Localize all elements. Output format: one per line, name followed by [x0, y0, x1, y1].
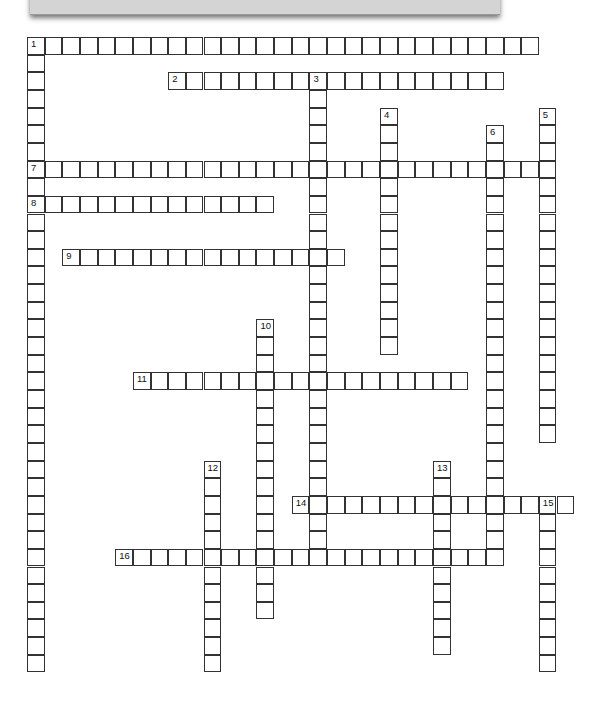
grid-cell[interactable]: 12: [204, 461, 222, 479]
grid-cell[interactable]: [133, 196, 151, 214]
grid-cell[interactable]: [309, 390, 327, 408]
grid-cell[interactable]: [486, 231, 504, 249]
grid-cell[interactable]: [309, 549, 327, 567]
grid-cell[interactable]: [292, 37, 310, 55]
grid-cell[interactable]: [256, 514, 274, 532]
grid-cell[interactable]: [115, 161, 133, 179]
grid-cell[interactable]: [362, 372, 380, 390]
grid-cell[interactable]: [380, 72, 398, 90]
grid-cell[interactable]: [274, 161, 292, 179]
grid-cell[interactable]: [486, 249, 504, 267]
grid-cell[interactable]: [256, 496, 274, 514]
grid-cell[interactable]: [309, 143, 327, 161]
grid-cell[interactable]: [380, 266, 398, 284]
grid-cell[interactable]: [539, 178, 557, 196]
grid-cell[interactable]: [204, 655, 222, 673]
grid-cell[interactable]: [327, 496, 345, 514]
grid-cell[interactable]: [327, 372, 345, 390]
grid-cell[interactable]: [256, 443, 274, 461]
grid-cell[interactable]: [539, 655, 557, 673]
grid-cell[interactable]: [27, 249, 45, 267]
grid-cell[interactable]: [62, 196, 80, 214]
grid-cell[interactable]: [133, 161, 151, 179]
grid-cell[interactable]: 10: [256, 319, 274, 337]
grid-cell[interactable]: [309, 337, 327, 355]
grid-cell[interactable]: [345, 549, 363, 567]
grid-cell[interactable]: [504, 161, 522, 179]
grid-cell[interactable]: [433, 619, 451, 637]
grid-cell[interactable]: [309, 319, 327, 337]
grid-cell[interactable]: [451, 72, 469, 90]
grid-cell[interactable]: [486, 337, 504, 355]
grid-cell[interactable]: [221, 549, 239, 567]
grid-cell[interactable]: [415, 161, 433, 179]
grid-cell[interactable]: [256, 478, 274, 496]
grid-cell[interactable]: [204, 602, 222, 620]
grid-cell[interactable]: [221, 249, 239, 267]
grid-cell[interactable]: [80, 161, 98, 179]
grid-cell[interactable]: [292, 549, 310, 567]
grid-cell[interactable]: [45, 37, 63, 55]
grid-cell[interactable]: [274, 549, 292, 567]
grid-cell[interactable]: [239, 161, 257, 179]
grid-cell[interactable]: [309, 372, 327, 390]
grid-cell[interactable]: [221, 196, 239, 214]
grid-cell[interactable]: [221, 161, 239, 179]
grid-cell[interactable]: [327, 72, 345, 90]
grid-cell[interactable]: [221, 372, 239, 390]
grid-cell[interactable]: [309, 196, 327, 214]
grid-cell[interactable]: [345, 72, 363, 90]
grid-cell[interactable]: [415, 72, 433, 90]
grid-cell[interactable]: [204, 72, 222, 90]
grid-cell[interactable]: [327, 549, 345, 567]
grid-cell[interactable]: [415, 496, 433, 514]
grid-cell[interactable]: [239, 372, 257, 390]
grid-cell[interactable]: [27, 72, 45, 90]
grid-cell[interactable]: [309, 461, 327, 479]
grid-cell[interactable]: 2: [168, 72, 186, 90]
grid-cell[interactable]: [539, 266, 557, 284]
grid-cell[interactable]: [433, 478, 451, 496]
grid-cell[interactable]: [380, 178, 398, 196]
grid-cell[interactable]: [204, 531, 222, 549]
grid-cell[interactable]: 13: [433, 461, 451, 479]
grid-cell[interactable]: [256, 531, 274, 549]
grid-cell[interactable]: [168, 549, 186, 567]
grid-cell[interactable]: [204, 584, 222, 602]
grid-cell[interactable]: [362, 37, 380, 55]
grid-cell[interactable]: [186, 72, 204, 90]
grid-cell[interactable]: [451, 496, 469, 514]
grid-cell[interactable]: [486, 549, 504, 567]
grid-cell[interactable]: [398, 161, 416, 179]
grid-cell[interactable]: [345, 37, 363, 55]
grid-cell[interactable]: 9: [62, 249, 80, 267]
grid-cell[interactable]: [98, 196, 116, 214]
grid-cell[interactable]: [239, 37, 257, 55]
grid-cell[interactable]: [168, 196, 186, 214]
grid-cell[interactable]: [468, 72, 486, 90]
grid-cell[interactable]: [27, 355, 45, 373]
grid-cell[interactable]: [27, 425, 45, 443]
grid-cell[interactable]: [468, 549, 486, 567]
grid-cell[interactable]: [539, 231, 557, 249]
grid-cell[interactable]: [398, 37, 416, 55]
grid-cell[interactable]: [292, 372, 310, 390]
grid-cell[interactable]: [274, 37, 292, 55]
grid-cell[interactable]: [398, 496, 416, 514]
grid-cell[interactable]: [168, 37, 186, 55]
grid-cell[interactable]: [309, 37, 327, 55]
grid-cell[interactable]: [256, 37, 274, 55]
grid-cell[interactable]: [292, 161, 310, 179]
grid-cell[interactable]: [27, 372, 45, 390]
grid-cell[interactable]: [133, 37, 151, 55]
grid-cell[interactable]: [539, 390, 557, 408]
grid-cell[interactable]: [345, 161, 363, 179]
grid-cell[interactable]: [309, 302, 327, 320]
grid-cell[interactable]: [451, 549, 469, 567]
grid-cell[interactable]: [168, 161, 186, 179]
grid-cell[interactable]: [327, 161, 345, 179]
grid-cell[interactable]: [204, 249, 222, 267]
grid-cell[interactable]: [27, 231, 45, 249]
grid-cell[interactable]: [398, 549, 416, 567]
grid-cell[interactable]: [433, 602, 451, 620]
